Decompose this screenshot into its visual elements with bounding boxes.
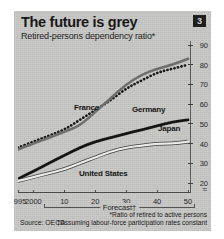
series-label-united-states: United States [79, 169, 128, 178]
chart-figure: The future is grey Retired-persons depen… [14, 11, 211, 231]
series-label-germany: Germany [132, 105, 165, 114]
status-badge: 3 [193, 15, 206, 27]
series-label-france: France [74, 103, 99, 112]
x-tick-mark [64, 190, 65, 193]
x-tick-mark [126, 190, 127, 193]
y-tick-30: 30 [194, 160, 208, 167]
y-tick-50: 50 [194, 121, 208, 128]
x-tick-label: 2000 [25, 197, 42, 206]
x-tick-mark [18, 190, 19, 193]
x-tick-mark [95, 190, 96, 193]
plot-area [18, 45, 191, 183]
y-tick-90: 90 [194, 42, 208, 49]
x-tick-mark [188, 190, 189, 193]
chart-subtitle: Retired-persons dependency ratio* [21, 31, 207, 42]
y-tick-80: 80 [194, 62, 208, 69]
y-tick-70: 70 [194, 81, 208, 88]
page-title: The future is grey [21, 15, 207, 30]
chart-header: The future is grey Retired-persons depen… [21, 15, 207, 42]
footnote-2: †Assuming labour-force participation rat… [57, 219, 207, 227]
footnote-1: *Ratio of retired to active persons [57, 211, 207, 219]
y-tick-40: 40 [194, 141, 208, 148]
chart-footnotes: *Ratio of retired to active persons †Ass… [57, 211, 207, 227]
x-tick-mark [157, 190, 158, 193]
x-tick-mark [33, 190, 34, 193]
y-tick-60: 60 [194, 101, 208, 108]
series-lines [18, 45, 191, 183]
series-label-japan: Japan [158, 124, 180, 133]
